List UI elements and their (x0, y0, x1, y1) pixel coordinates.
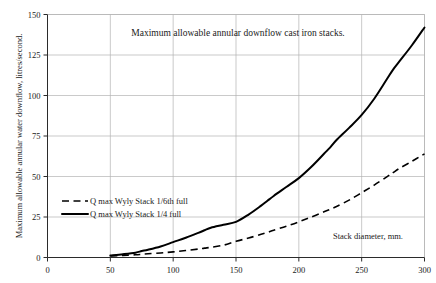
x-axis-title: Stack diameter, mm. (333, 231, 403, 241)
y-tick-label: 125 (28, 50, 41, 60)
x-tick-label: 300 (418, 265, 431, 275)
y-tick-label: 50 (32, 172, 41, 182)
y-tick-label: 75 (32, 131, 41, 141)
x-tick-label: 100 (167, 265, 180, 275)
x-tick-label: 200 (292, 265, 305, 275)
y-tick-label: 150 (28, 10, 41, 20)
legend-label-2: Q max Wyly Stack 1/4 full (90, 209, 182, 219)
y-tick-label: 100 (28, 91, 41, 101)
y-tick-label: 0 (36, 253, 40, 263)
x-tick-label: 250 (355, 265, 368, 275)
x-tick-label: 50 (106, 265, 115, 275)
line-chart: 0255075100125150050100150200250300Maximu… (0, 0, 436, 283)
y-axis-title: Maximum allowable annular water downflow… (14, 34, 24, 239)
legend-label-1: Q max Wyly Stack 1/6th full (90, 196, 188, 206)
y-tick-label: 25 (32, 212, 41, 222)
x-tick-label: 0 (45, 265, 49, 275)
chart-figure: 0255075100125150050100150200250300Maximu… (0, 0, 436, 283)
x-tick-label: 150 (230, 265, 243, 275)
series-line-2 (110, 27, 424, 255)
chart-title: Maximum allowable annular downflow cast … (131, 28, 344, 38)
